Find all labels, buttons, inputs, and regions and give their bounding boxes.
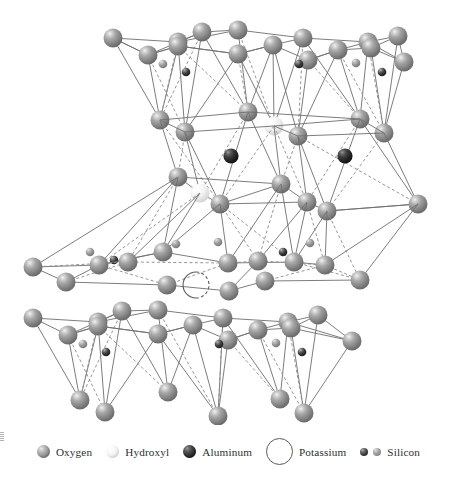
atom-oxygen [343,332,362,351]
silicon-sphere-light-icon [373,448,381,456]
atom-oxygen [229,45,248,64]
crystal-structure-figure: Oxygen Hydroxyl Aluminum Potassium Silic… [0,0,457,478]
atom-oxygen [362,39,381,58]
atom-oxygen [184,316,203,335]
atom-oxygen [71,391,90,410]
atom-silicon [215,340,224,349]
atom-oxygen [249,321,268,340]
aluminum-sphere-icon [183,445,196,458]
atom-oxygen [294,29,313,48]
atom-oxygen [220,282,239,301]
atom-oxygen [149,301,168,320]
atom-oxygen [282,319,301,338]
hydroxyl-sphere-icon [106,445,119,458]
legend-label-silicon: Silicon [387,446,420,458]
silicon-sphere-pair-icon [360,448,381,456]
legend-label-potassium: Potassium [299,446,346,458]
atom-oxygen [351,271,370,290]
legend-item-aluminum: Aluminum [183,445,252,458]
atom-oxygen [159,383,178,402]
atom-silicon [172,240,181,249]
atom-oxygen [154,243,173,262]
atom-aluminum [223,148,238,163]
legend-item-oxygen: Oxygen [37,445,92,458]
atom-oxygen [193,23,212,42]
legend-label-oxygen: Oxygen [56,446,92,458]
atom-oxygen [309,306,328,325]
atom-silicon [279,248,288,257]
atom-oxygen [96,403,115,422]
atom-oxygen [395,53,414,72]
atom-oxygen [229,21,248,40]
atom-silicon [298,348,307,357]
atom-oxygen [214,309,233,328]
atom-silicon [86,248,95,257]
atom-silicon [79,340,88,349]
atom-oxygen [90,256,109,275]
potassium-ring-icon [266,438,293,465]
potassium-site [183,272,209,298]
atom-silicon [352,59,361,68]
atom-oxygen [158,276,177,295]
atom-silicon [159,60,168,69]
atom-oxygen [24,258,43,277]
atom-aluminum [337,148,352,163]
atom-oxygen [264,36,283,55]
atom-oxygen [389,27,408,46]
top-sheet-silicon-atoms [159,59,387,77]
bottom-tetrahedral-sheet [24,301,362,426]
legend-label-hydroxyl: Hydroxyl [125,446,169,458]
atom-silicon [214,238,223,247]
atom-oxygen [169,37,188,56]
atom-silicon [272,339,281,348]
legend: Oxygen Hydroxyl Aluminum Potassium Silic… [0,425,457,478]
legend-label-aluminum: Aluminum [202,446,252,458]
atom-oxygen [57,273,76,292]
silicon-sphere-dark-icon [360,448,368,456]
bottom-sheet-silicon-atoms [79,339,307,357]
interlayer-hidden-bonds [33,261,360,285]
atom-oxygen [24,309,43,328]
oxygen-sphere-icon [37,445,50,458]
atom-oxygen [119,253,138,272]
legend-item-silicon: Silicon [360,446,420,458]
potassium-ring-visible-arc [183,272,196,298]
atom-oxygen [139,46,158,65]
atom-oxygen [271,390,290,409]
atom-oxygen [329,41,348,60]
atom-oxygen [59,326,78,345]
atom-oxygen [104,29,123,48]
atom-oxygen [219,254,238,273]
atom-oxygen [249,252,268,271]
atom-oxygen [256,272,275,291]
legend-row: Oxygen Hydroxyl Aluminum Potassium Silic… [23,438,434,465]
atom-silicon [295,60,304,69]
atom-silicon [306,239,315,248]
atom-oxygen [285,253,304,272]
top-tetrahedral-sheet [104,21,414,146]
potassium-ring-hidden-arc [196,272,209,298]
atom-oxygen [209,407,228,426]
legend-item-potassium: Potassium [266,438,346,465]
atom-silicon [182,68,191,77]
top-sheet-basal-oxygen-atoms [104,21,414,72]
interlayer-plane [24,243,370,301]
legend-item-hydroxyl: Hydroxyl [106,445,169,458]
atom-oxygen [113,302,132,321]
bottom-sheet-basal-oxygen-atoms [24,301,362,351]
atom-oxygen [89,317,108,336]
atom-oxygen [149,325,168,344]
atom-silicon [378,68,387,77]
crystal-structure-diagram [0,0,457,425]
atom-silicon [102,348,111,357]
atom-oxygen [295,404,314,423]
atom-oxygen [316,256,335,275]
